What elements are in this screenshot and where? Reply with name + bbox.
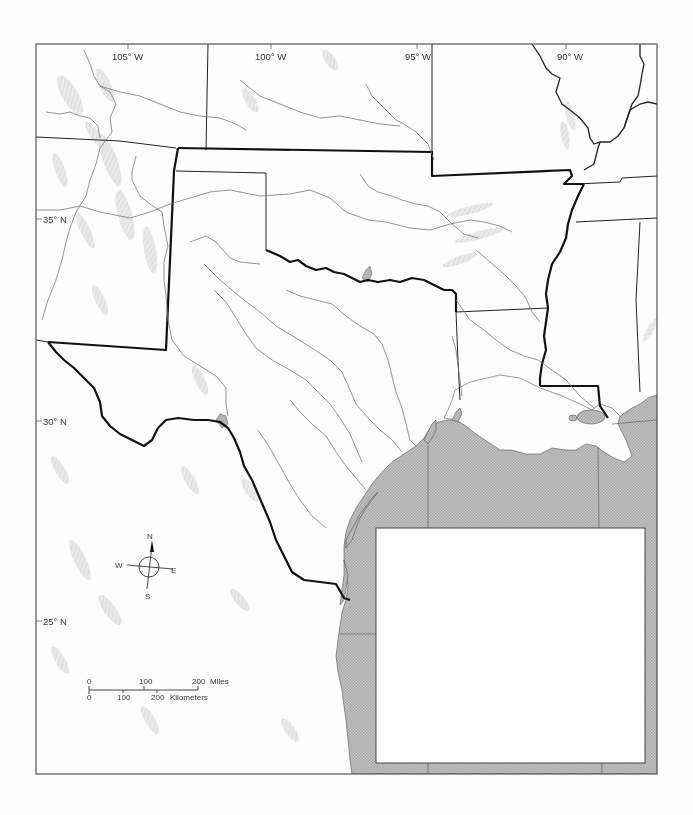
compass-west-label: W: [115, 561, 123, 570]
north-arrow-icon: [150, 540, 154, 552]
ohio-river: [600, 44, 644, 142]
inset-box: [376, 528, 645, 763]
compass-east-label: E: [171, 566, 176, 575]
lake-maurepas: [569, 415, 577, 421]
latitude-label-25n: 25° N: [43, 616, 67, 627]
latitude-label-35n: 35° N: [43, 214, 67, 225]
longitude-label-95w: 95° W: [405, 51, 431, 62]
compass-south-label: S: [145, 592, 150, 601]
scale-km-100: 100: [117, 693, 131, 702]
scale-miles-100: 100: [139, 677, 153, 686]
compass-north-label: N: [147, 532, 153, 541]
tennessee-river: [624, 102, 657, 128]
scale-miles-0: 0: [87, 677, 92, 686]
latitude-label-30n: 30° N: [43, 416, 67, 427]
latitude-graticule-labels: 35° N 30° N 25° N: [36, 214, 67, 627]
longitude-label-90w: 90° W: [557, 51, 583, 62]
lake-pontchartrain: [577, 410, 605, 424]
scale-km-200: 200: [151, 693, 165, 702]
scale-km-0: 0: [87, 693, 92, 702]
longitude-label-100w: 100° W: [255, 51, 286, 62]
scale-miles-200: 200: [192, 677, 206, 686]
scale-miles-unit: Miles: [210, 677, 229, 686]
scale-km-unit: Kilometers: [170, 693, 208, 702]
longitude-label-105w: 105° W: [112, 51, 143, 62]
longitude-graticule-labels: 105° W 100° W 95° W 90° W: [112, 44, 583, 62]
compass-rose: N S E W: [115, 532, 176, 601]
mississippi-river-upper: [532, 44, 600, 170]
map-canvas: 105° W 100° W 95° W 90° W 35° N 30° N 25…: [0, 0, 693, 815]
scale-bar: 0 100 200 Miles 0 100 200 Kilometers: [87, 677, 229, 702]
